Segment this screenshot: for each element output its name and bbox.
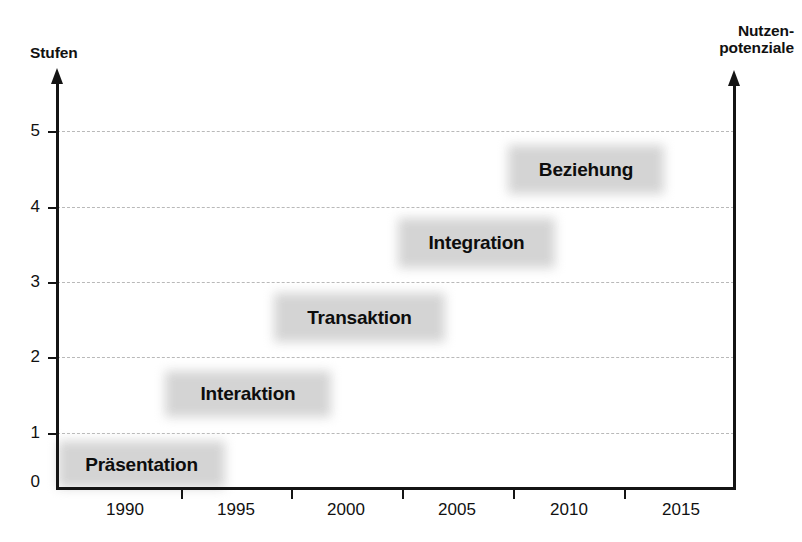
gridline-level-5: [57, 131, 734, 132]
x-tick-label-1990: 1990: [90, 500, 160, 520]
y-tick-label-4: 4: [16, 197, 40, 217]
x-tick-mark-3: [402, 489, 404, 499]
y-axis-arrow-icon: [51, 68, 63, 84]
gridline-level-3: [57, 282, 734, 283]
y-axis-title: Stufen: [30, 44, 78, 61]
gridline-level-2: [57, 357, 734, 358]
x-tick-mark-4: [513, 489, 515, 499]
x-axis-line: [56, 487, 736, 490]
stage-block-beziehung: Beziehung: [508, 145, 664, 194]
stage-label: Präsentation: [85, 454, 198, 476]
y-axis-line: [56, 80, 59, 489]
stage-label: Transaktion: [307, 307, 411, 329]
stage-block-integration: Integration: [398, 218, 555, 268]
chart-figure: Stufen Nutzen-potenziale Präsentation In…: [0, 0, 802, 542]
stage-block-transaktion: Transaktion: [274, 293, 445, 342]
stage-block-praesentation: Präsentation: [58, 441, 225, 488]
y-tick-label-1: 1: [16, 423, 40, 443]
x-tick-label-2015: 2015: [646, 500, 716, 520]
x-tick-label-2005: 2005: [422, 500, 492, 520]
y-tick-mark-4: [48, 207, 58, 209]
stage-block-interaktion: Interaktion: [165, 371, 331, 417]
y-tick-mark-5: [48, 131, 58, 133]
y-tick-mark-2: [48, 357, 58, 359]
gridline-level-1: [57, 433, 734, 434]
y-tick-label-5: 5: [16, 121, 40, 141]
y-tick-label-0: 0: [16, 472, 40, 492]
x-tick-mark-1: [181, 489, 183, 499]
right-axis-title: Nutzen-potenziale: [719, 22, 794, 57]
y-tick-mark-1: [48, 433, 58, 435]
right-axis-title-line1: Nutzen-: [738, 22, 794, 39]
stage-label: Integration: [429, 232, 525, 254]
y-tick-mark-3: [48, 282, 58, 284]
y-tick-label-2: 2: [16, 347, 40, 367]
x-tick-label-2000: 2000: [311, 500, 381, 520]
stage-label: Beziehung: [539, 159, 633, 181]
x-tick-label-1995: 1995: [201, 500, 271, 520]
right-axis-line: [733, 82, 736, 489]
x-tick-mark-2: [291, 489, 293, 499]
y-tick-label-3: 3: [16, 272, 40, 292]
x-tick-label-2010: 2010: [534, 500, 604, 520]
right-axis-arrow-icon: [728, 70, 740, 86]
right-axis-title-line2: potenziale: [719, 39, 794, 56]
stage-label: Interaktion: [201, 383, 296, 405]
x-tick-mark-5: [624, 489, 626, 499]
gridline-level-4: [57, 207, 734, 208]
